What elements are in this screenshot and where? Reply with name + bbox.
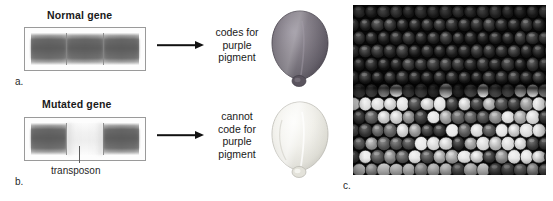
gene-segment-exon-1 <box>31 33 66 65</box>
purple-kernel <box>268 9 332 87</box>
corn-cob-canvas <box>353 5 546 175</box>
gene-segment-exon-2 <box>66 33 102 65</box>
panel-label-c: c. <box>343 180 351 191</box>
panel-label-a: a. <box>15 76 23 87</box>
panel-label-b: b. <box>15 176 23 187</box>
normal-gene-title: Normal gene <box>47 9 112 21</box>
gene-segment-exon-3 <box>103 33 139 65</box>
transposon-leader-line <box>79 146 80 163</box>
normal-gene-caption: codes for purple pigment <box>208 26 266 64</box>
mutated-segment-exon-1 <box>31 123 66 155</box>
mutated-gene-diagram <box>24 117 146 161</box>
corn-cob-photo <box>353 5 546 175</box>
transposon-corn-figure: Normal gene a. codes for purple pigment <box>0 0 553 201</box>
mutated-segment-transposon <box>66 123 102 155</box>
mutated-gene-title: Mutated gene <box>42 98 111 110</box>
pale-kernel <box>268 100 332 178</box>
mutated-gene-arrow <box>157 128 204 142</box>
mutated-gene-caption: cannot code for purple pigment <box>208 110 266 160</box>
transposon-label: transposon <box>51 165 100 176</box>
normal-gene-diagram <box>24 27 146 71</box>
normal-gene-arrow <box>157 38 204 52</box>
mutated-segment-exon-2 <box>103 123 139 155</box>
